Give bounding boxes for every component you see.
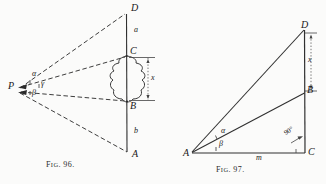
fig97-angle-label-beta: β xyxy=(219,140,223,148)
fig-97-group xyxy=(192,30,317,153)
fig97-point-label-B: B xyxy=(307,85,313,95)
node-dot-B xyxy=(126,100,128,102)
fig97-angle-label-alpha: α xyxy=(221,127,225,135)
fig96-angle-label-alpha: α xyxy=(32,70,36,78)
fig96-point-label-D: D xyxy=(131,3,138,13)
fig96-angle-label-beta: β xyxy=(32,89,36,97)
fig-96-caption-number: . 96. xyxy=(59,160,75,169)
sight-ray-P-A xyxy=(20,93,127,152)
fig96-point-label-C: C xyxy=(130,46,137,56)
triangle-side-DC xyxy=(305,30,306,153)
fig-96-caption: FIG. 96. xyxy=(46,160,75,169)
fig97-segment-label-m: m xyxy=(256,154,262,162)
fig96-point-label-P: P xyxy=(8,81,14,91)
node-dot-C xyxy=(126,55,128,57)
fig97-segment-label-x: x xyxy=(308,56,312,64)
sight-ray-P-C xyxy=(21,57,125,87)
fig-97-caption: FIG. 97. xyxy=(216,165,245,174)
dim-arrow-up-x-97 xyxy=(310,35,313,39)
figures-drawing-canvas xyxy=(0,0,326,184)
fig96-segment-label-x: x xyxy=(151,74,155,82)
fig96-segment-label-a: a xyxy=(134,26,138,34)
angle-arc-alpha-97 xyxy=(216,136,218,140)
fig96-angle-label-gamma: γ xyxy=(41,80,44,88)
fig97-point-label-D: D xyxy=(301,20,308,30)
fig96-point-label-A: A xyxy=(132,149,138,159)
staff-line-AD xyxy=(127,14,128,152)
fig97-point-label-A: A xyxy=(183,148,189,158)
fig-97-caption-number: . 97. xyxy=(229,165,245,174)
fig-96-caption-ig: IG xyxy=(51,161,59,168)
fig-97-caption-ig: IG xyxy=(221,166,229,173)
sight-ray-P-B xyxy=(21,92,125,101)
right-angle-arrowhead xyxy=(298,136,304,140)
dim-arrow-down-x xyxy=(146,95,149,99)
tree-outline xyxy=(110,56,145,102)
triangle-side-AB xyxy=(192,93,305,153)
fig96-point-label-B: B xyxy=(130,101,136,111)
fig97-point-label-C: C xyxy=(308,147,315,157)
dim-arrow-up-x xyxy=(146,59,149,63)
fig96-segment-label-b: b xyxy=(134,127,138,135)
arrowhead-P-upper xyxy=(18,84,27,89)
